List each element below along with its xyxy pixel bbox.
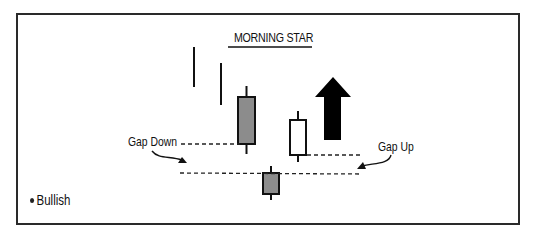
star-candle <box>263 166 279 200</box>
legend-item-bullish: Bullish <box>30 192 70 208</box>
legend-label: Bullish <box>37 192 71 208</box>
diagram-title: MORNING STAR <box>234 30 306 45</box>
up-arrow-icon <box>315 77 351 140</box>
gap-up-label: Gap Up <box>378 139 414 154</box>
gap-down-pointer-arrow <box>152 151 187 163</box>
gap-down-label: Gap Down <box>128 134 177 149</box>
bearish-candle <box>238 86 255 154</box>
bullet-icon <box>30 198 34 203</box>
bullish-candle <box>290 111 306 162</box>
gap-up-pointer-arrow <box>357 155 391 169</box>
